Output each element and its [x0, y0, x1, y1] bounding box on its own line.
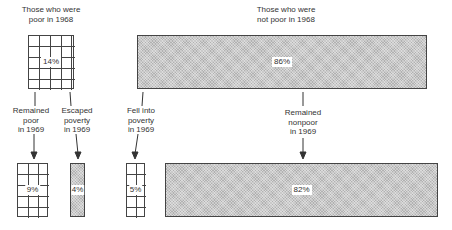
label-remained-poor: Remained poor in 1969	[6, 106, 56, 135]
label-line: Remained	[278, 108, 328, 118]
label-line: Remained	[6, 106, 56, 116]
label-line: Fell into	[116, 106, 166, 116]
label-line: in 1969	[278, 127, 328, 137]
box-escaped-poverty: 4%	[70, 163, 85, 217]
value-label: 82%	[291, 185, 311, 195]
box-remained-poor: 9%	[17, 163, 48, 217]
label-escaped-poverty: Escaped poverty in 1969	[52, 106, 102, 135]
label-line: in 1969	[6, 125, 56, 135]
label-line: in 1969	[52, 125, 102, 135]
label-line: poor	[6, 116, 56, 126]
value-label: 9%	[25, 185, 41, 195]
value-label: 5%	[129, 185, 143, 195]
value-label: 4%	[71, 185, 85, 195]
box-remained-nonpoor: 82%	[165, 163, 438, 217]
label-line: Escaped	[52, 106, 102, 116]
label-remained-nonpoor: Remained nonpoor in 1969	[278, 108, 328, 137]
label-line: in 1969	[116, 125, 166, 135]
label-line: nonpoor	[278, 118, 328, 128]
label-line: poverty	[52, 116, 102, 126]
label-line: poverty	[116, 116, 166, 126]
label-fell-into-poverty: Fell into poverty in 1969	[116, 106, 166, 135]
box-fell-into-poverty: 5%	[126, 163, 145, 217]
